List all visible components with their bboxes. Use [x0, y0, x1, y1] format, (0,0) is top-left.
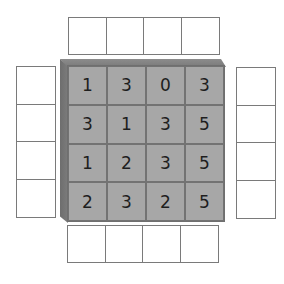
- bottom-clue-box[interactable]: [105, 225, 144, 263]
- top-clue-box[interactable]: [106, 17, 145, 55]
- right-clue-box[interactable]: [236, 180, 276, 219]
- bottom-clue-row: [67, 225, 217, 263]
- grid-cell: 1: [68, 144, 107, 183]
- bottom-clue-box[interactable]: [180, 225, 219, 263]
- grid-cell: 2: [68, 182, 107, 221]
- grid-cell: 3: [185, 66, 224, 105]
- grid-cell: 3: [107, 182, 146, 221]
- grid-cell: 1: [68, 66, 107, 105]
- left-clue-column: [16, 66, 56, 216]
- grid-cell: 3: [68, 105, 107, 144]
- right-clue-box[interactable]: [236, 105, 276, 144]
- right-clue-column: [236, 67, 276, 217]
- right-clue-box[interactable]: [236, 142, 276, 181]
- top-clue-box[interactable]: [181, 17, 220, 55]
- number-grid-block: 1 3 0 3 3 1 3 5 1 2 3 5 2 3 2 5: [60, 59, 227, 223]
- grid-cell: 3: [146, 105, 185, 144]
- grid-cell: 5: [185, 144, 224, 183]
- grid-cell: 5: [185, 105, 224, 144]
- top-clue-box[interactable]: [68, 17, 107, 55]
- bottom-clue-box[interactable]: [142, 225, 181, 263]
- grid-cell: 2: [146, 182, 185, 221]
- bottom-clue-box[interactable]: [67, 225, 106, 263]
- right-clue-box[interactable]: [236, 67, 276, 106]
- grid-cell: 3: [107, 66, 146, 105]
- number-grid: 1 3 0 3 3 1 3 5 1 2 3 5 2 3 2 5: [67, 65, 225, 222]
- grid-cell: 2: [107, 144, 146, 183]
- grid-cell: 5: [185, 182, 224, 221]
- left-clue-box[interactable]: [16, 104, 56, 143]
- grid-cell: 0: [146, 66, 185, 105]
- left-clue-box[interactable]: [16, 66, 56, 105]
- grid-cell: 3: [146, 144, 185, 183]
- top-clue-row: [68, 17, 218, 55]
- left-clue-box[interactable]: [16, 179, 56, 218]
- top-clue-box[interactable]: [143, 17, 182, 55]
- left-clue-box[interactable]: [16, 141, 56, 180]
- grid-cell: 1: [107, 105, 146, 144]
